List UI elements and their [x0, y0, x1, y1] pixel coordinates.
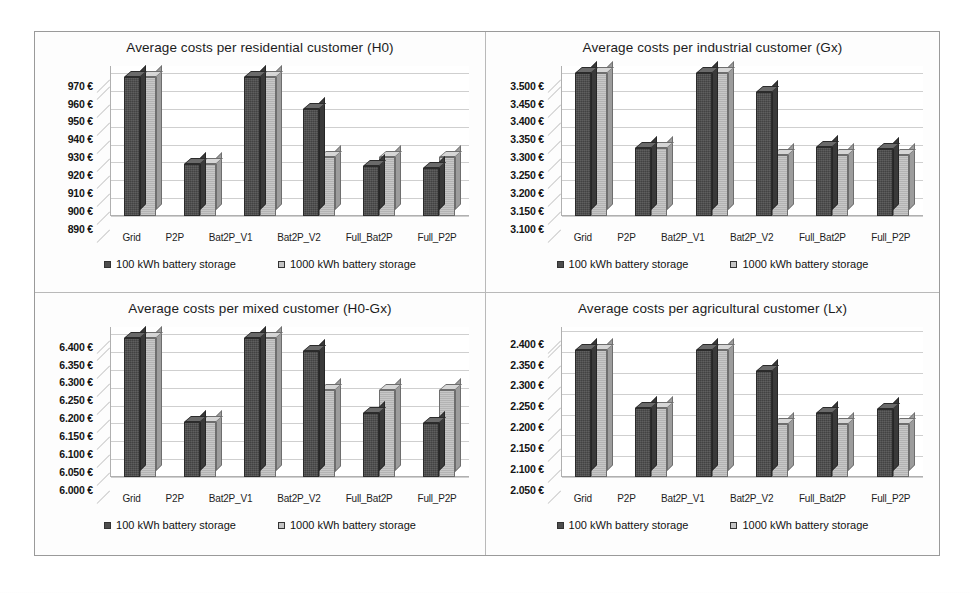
legend-swatch-icon: [278, 261, 285, 268]
bar-face: [756, 92, 772, 216]
x-axis-tick-label: Full_Bat2P: [799, 493, 846, 504]
bar-side-3d: [651, 396, 657, 471]
bar-group: [423, 327, 455, 477]
bar-face: [756, 371, 772, 477]
bar: [423, 423, 439, 477]
axis-depth-tick: [97, 419, 110, 432]
bar-groups: [561, 66, 923, 216]
y-axis-labels: 6.400 €6.350 €6.300 €6.250 €6.200 €6.150…: [37, 327, 93, 490]
x-axis-tick-label: Full_P2P: [418, 493, 457, 504]
x-axis-tick-label: Bat2P_V2: [730, 232, 773, 243]
chart-panel-industrial: Average costs per industrial customer (G…: [486, 32, 939, 293]
legend-label: 1000 kWh battery storage: [742, 258, 868, 270]
y-axis-tick-label: 3.450 €: [510, 98, 544, 110]
y-axis-tick-label: 2.150 €: [510, 442, 544, 454]
chart-panel-mixed: Average costs per mixed customer (H0-Gx)…: [35, 293, 486, 555]
y-axis-tick-label: 910 €: [68, 187, 93, 199]
bar: [124, 338, 140, 477]
bar-group: [124, 327, 156, 477]
bar-side-3d: [260, 65, 266, 210]
y-axis-tick-label: 960 €: [68, 98, 93, 110]
x-axis-labels: GridP2PBat2P_V1Bat2P_V2Full_Bat2PFull_P2…: [561, 493, 923, 504]
y-axis-tick-label: 6.100 €: [59, 448, 93, 460]
legend-swatch-icon: [730, 522, 737, 529]
y-axis-tick-label: 3.400 €: [510, 115, 544, 127]
x-axis-tick-label: Bat2P_V2: [277, 232, 320, 243]
y-axis-tick-label: 6.250 €: [59, 394, 93, 406]
chart-title: Average costs per mixed customer (H0-Gx): [35, 301, 485, 316]
y-axis-labels: 970 €960 €950 €940 €930 €920 €910 €900 €…: [37, 66, 93, 229]
legend-swatch-icon: [557, 522, 564, 529]
y-axis-tick-label: 6.150 €: [59, 430, 93, 442]
gridline: [562, 216, 923, 217]
y-axis-labels: 2.400 €2.350 €2.300 €2.250 €2.200 €2.150…: [488, 327, 544, 490]
x-axis-tick-label: Grid: [574, 493, 592, 504]
x-axis-tick-label: Grid: [574, 232, 592, 243]
bar-side-3d: [607, 61, 613, 210]
bar-group: [575, 66, 607, 216]
bar-group: [363, 66, 395, 216]
axis-depth-tick: [548, 229, 561, 242]
y-axis-tick-label: 970 €: [68, 80, 93, 92]
axis-depth-tick: [97, 212, 110, 225]
x-axis-tick-label: P2P: [617, 232, 635, 243]
bar-face: [244, 77, 260, 216]
y-axis-tick-label: 6.300 €: [59, 376, 93, 388]
axis-depth-tick: [548, 490, 561, 503]
axis-depth-tick: [97, 383, 110, 396]
bar-group: [184, 327, 216, 477]
y-axis-tick-label: 920 €: [68, 169, 93, 181]
axis-depth-tick: [97, 104, 110, 117]
axis-depth-tick: [97, 194, 110, 207]
bar-group: [816, 66, 848, 216]
x-axis-tick-label: Grid: [122, 493, 140, 504]
axis-depth-tick: [97, 437, 110, 450]
legend-swatch-icon: [730, 261, 737, 268]
chart-grid: Average costs per residential customer (…: [35, 32, 939, 555]
bar-side-3d: [667, 136, 673, 210]
y-axis-tick-label: 3.150 €: [510, 205, 544, 217]
axis-depth-tick: [97, 229, 110, 242]
x-axis-tick-label: Full_Bat2P: [346, 232, 393, 243]
x-axis-tick-label: Full_Bat2P: [346, 493, 393, 504]
figure-frame: Average costs per residential customer (…: [34, 31, 940, 556]
bar-side-3d: [156, 65, 162, 210]
legend-item: 1000 kWh battery storage: [730, 258, 868, 270]
plot-area: 970 €960 €950 €940 €930 €920 €910 €900 €…: [97, 66, 469, 229]
y-axis-tick-label: 6.400 €: [59, 341, 93, 353]
bar: [696, 73, 712, 216]
bar-face: [877, 409, 893, 477]
bar-side-3d: [455, 378, 461, 472]
x-axis-tick-label: P2P: [617, 493, 635, 504]
gridline: [562, 477, 923, 478]
legend-item: 100 kWh battery storage: [104, 258, 236, 270]
x-axis-tick-label: Full_Bat2P: [799, 232, 846, 243]
gridline: [111, 216, 469, 217]
axis-depth-tick: [97, 158, 110, 171]
axis-depth-tick: [548, 470, 561, 483]
bar-face: [635, 148, 651, 216]
axis-depth-tick: [548, 122, 561, 135]
y-axis-tick-label: 6.350 €: [59, 359, 93, 371]
bar-side-3d: [140, 326, 146, 471]
y-axis-tick-label: 3.300 €: [510, 151, 544, 163]
bar: [816, 413, 832, 477]
legend-item: 1000 kWh battery storage: [278, 519, 416, 531]
bar-side-3d: [276, 326, 282, 471]
bar-side-3d: [591, 338, 597, 471]
chart-title: Average costs per industrial customer (G…: [486, 40, 939, 55]
bar-group: [184, 66, 216, 216]
y-axis-tick-label: 3.500 €: [510, 80, 544, 92]
bar-side-3d: [591, 61, 597, 210]
x-axis-labels: GridP2PBat2P_V1Bat2P_V2Full_Bat2PFull_P2…: [561, 232, 923, 243]
bar: [244, 338, 260, 477]
bar-side-3d: [156, 326, 162, 471]
chart-title: Average costs per residential customer (…: [35, 40, 485, 55]
bar-group: [363, 327, 395, 477]
chart-panel-agricultural: Average costs per agricultural customer …: [486, 293, 939, 555]
bar-side-3d: [832, 135, 838, 210]
bar-face: [423, 168, 439, 216]
axis-depth-tick: [97, 401, 110, 414]
x-axis-tick-label: Full_P2P: [418, 232, 457, 243]
x-axis-tick-label: Bat2P_V1: [661, 493, 704, 504]
